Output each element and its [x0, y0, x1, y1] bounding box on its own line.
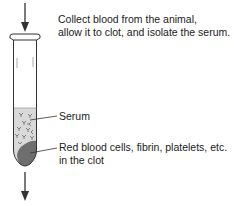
arrow-down-icon [21, 172, 29, 201]
clot-label: Red blood cells, fibrin, platelets, etc.… [59, 141, 227, 167]
clot-label-line2: in the clot [59, 154, 227, 167]
arrow-down-icon [21, 3, 29, 32]
serum-label: Serum [59, 110, 90, 123]
step-instruction-line2: allow it to clot, and isolate the serum. [58, 26, 230, 39]
step-instruction-line1: Collect blood from the animal, [58, 13, 230, 26]
clot-label-line1: Red blood cells, fibrin, platelets, etc. [59, 141, 227, 154]
tube-rim [10, 34, 40, 40]
step-instruction: Collect blood from the animal, allow it … [58, 13, 230, 39]
